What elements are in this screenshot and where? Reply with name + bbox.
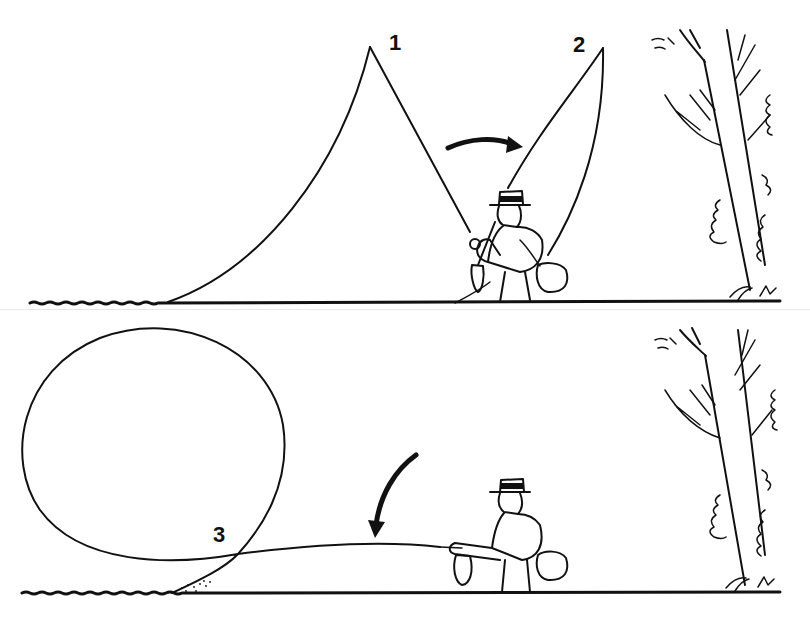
fly-line-return: [548, 48, 603, 255]
roll-cast-drawing: 3: [0, 310, 810, 617]
arrow-shaft: [448, 139, 512, 148]
panel-backcast: 1 2: [0, 0, 810, 310]
tree: [655, 328, 777, 591]
line-on-water: [455, 282, 490, 303]
fly-line-forward: [238, 544, 440, 554]
panel-roll-cast: 3: [0, 310, 810, 617]
arrow-icon: [506, 136, 523, 153]
fly-line-rear: [168, 47, 370, 302]
arrow-shaft: [376, 455, 416, 525]
tree: [652, 30, 776, 300]
arrow-icon: [368, 520, 385, 538]
fly-line-front: [370, 47, 470, 232]
label-position-3: 3: [213, 522, 225, 547]
fly-line-forward: [508, 48, 603, 188]
label-position-2: 2: [573, 32, 585, 57]
water-line: [22, 592, 780, 594]
angler-figure: [440, 479, 567, 592]
backcast-drawing: 1 2: [0, 0, 810, 310]
water-line: [30, 301, 780, 304]
label-position-1: 1: [389, 30, 401, 55]
